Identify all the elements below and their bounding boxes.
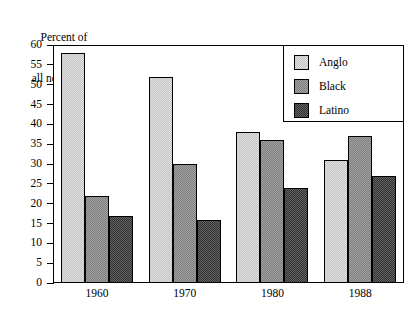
y-axis-tick-label: 40 — [18, 119, 42, 131]
legend-item-latino: Latino — [294, 103, 349, 118]
y-axis-tick-label: 50 — [18, 79, 42, 91]
y-axis-tick — [47, 144, 54, 145]
y-axis-tick — [47, 124, 54, 125]
y-axis-tick-label: 55 — [18, 59, 42, 71]
y-axis-tick — [47, 45, 54, 46]
legend-label-black: Black — [319, 81, 346, 93]
bar-anglo-1970 — [149, 77, 173, 283]
y-axis-tick — [47, 203, 54, 204]
y-axis-tick — [47, 104, 54, 105]
bar-latino-1988 — [372, 176, 396, 283]
y-axis-tick-label: 45 — [18, 99, 42, 111]
y-axis-tick — [47, 64, 54, 65]
y-axis-tick-label: 15 — [18, 218, 42, 230]
x-axis-tick-label: 1988 — [349, 288, 372, 300]
bar-black-1988 — [348, 136, 372, 283]
y-axis-tick-label: 25 — [18, 178, 42, 190]
bar-latino-1970 — [197, 220, 221, 283]
legend-label-latino: Latino — [319, 105, 349, 117]
y-axis-tick — [47, 263, 54, 264]
y-axis-tick-label: 35 — [18, 138, 42, 150]
x-axis-tick-label: 1960 — [85, 288, 108, 300]
y-axis-tick — [47, 283, 54, 284]
x-axis-tick-label: 1980 — [261, 288, 284, 300]
bar-chart: Percent of all new felons 05101520253035… — [0, 0, 418, 310]
y-axis-tick — [47, 164, 54, 165]
bar-anglo-1988 — [324, 160, 348, 283]
legend-swatch-black — [294, 79, 309, 94]
legend-item-black: Black — [294, 79, 346, 94]
y-axis-tick-label: 5 — [18, 257, 42, 269]
y-axis-tick-label: 30 — [18, 158, 42, 170]
bar-latino-1980 — [284, 188, 308, 283]
x-axis-tick-label: 1970 — [173, 288, 196, 300]
legend-swatch-anglo — [294, 55, 309, 70]
legend-swatch-latino — [294, 103, 309, 118]
y-axis-tick-label: 0 — [18, 277, 42, 289]
y-axis-tick — [47, 243, 54, 244]
bar-black-1960 — [85, 196, 109, 283]
bar-black-1970 — [173, 164, 197, 283]
bar-anglo-1960 — [61, 53, 85, 283]
legend-item-anglo: Anglo — [294, 55, 348, 70]
y-axis-tick-label: 60 — [18, 39, 42, 51]
y-axis-tick-label: 10 — [18, 238, 42, 250]
legend-label-anglo: Anglo — [319, 57, 348, 69]
y-axis-tick — [47, 84, 54, 85]
bar-latino-1960 — [109, 216, 133, 283]
bar-black-1980 — [260, 140, 284, 283]
bar-anglo-1980 — [236, 132, 260, 283]
legend: AngloBlackLatino — [283, 45, 404, 122]
y-axis-tick — [47, 223, 54, 224]
y-axis-tick — [47, 183, 54, 184]
y-axis-tick-label: 20 — [18, 198, 42, 210]
